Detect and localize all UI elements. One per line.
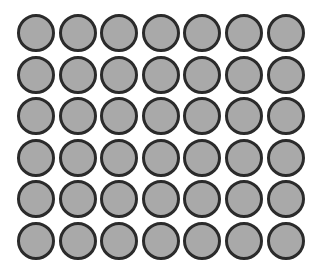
circle xyxy=(59,56,97,94)
circle xyxy=(142,139,180,177)
circle xyxy=(225,180,263,218)
circle xyxy=(183,14,221,52)
circle xyxy=(267,139,305,177)
circle xyxy=(142,222,180,260)
circle xyxy=(100,56,138,94)
circle xyxy=(142,14,180,52)
circle xyxy=(59,139,97,177)
circle xyxy=(183,139,221,177)
circle xyxy=(17,222,55,260)
circle xyxy=(225,56,263,94)
circle xyxy=(59,222,97,260)
circle xyxy=(100,222,138,260)
circle xyxy=(225,222,263,260)
circle xyxy=(17,56,55,94)
circle xyxy=(142,180,180,218)
circle xyxy=(100,180,138,218)
circle xyxy=(225,14,263,52)
circle xyxy=(183,56,221,94)
circle xyxy=(267,97,305,135)
circle xyxy=(267,222,305,260)
circle-grid xyxy=(17,14,305,260)
circle xyxy=(183,180,221,218)
circle xyxy=(100,97,138,135)
circle xyxy=(100,139,138,177)
circle xyxy=(267,180,305,218)
circle xyxy=(183,222,221,260)
circle xyxy=(183,97,221,135)
circle xyxy=(17,180,55,218)
circle xyxy=(267,14,305,52)
circle xyxy=(142,56,180,94)
circle xyxy=(267,56,305,94)
circle xyxy=(59,180,97,218)
circle xyxy=(59,97,97,135)
circle xyxy=(100,14,138,52)
circle xyxy=(142,97,180,135)
circle xyxy=(225,139,263,177)
circle xyxy=(59,14,97,52)
circle xyxy=(17,97,55,135)
circle xyxy=(17,14,55,52)
circle xyxy=(225,97,263,135)
circle xyxy=(17,139,55,177)
